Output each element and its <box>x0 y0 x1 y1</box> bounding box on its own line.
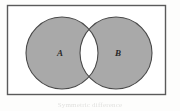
set-b-label: B <box>115 49 121 58</box>
set-a-label: A <box>57 49 63 58</box>
venn-diagram-figure: A B Symmetric difference <box>0 0 180 111</box>
figure-caption: Symmetric difference <box>0 101 180 111</box>
region-b-only-shading <box>0 0 180 111</box>
venn-diagram-canvas <box>0 0 180 111</box>
